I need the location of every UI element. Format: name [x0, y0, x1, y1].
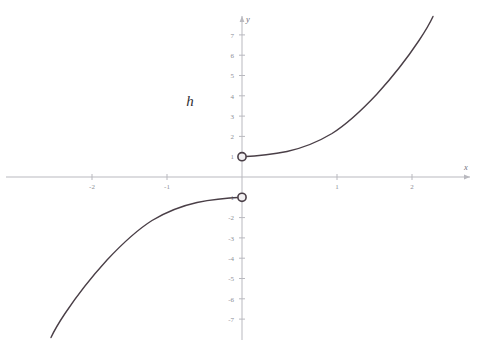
x-axis-arrow	[464, 175, 470, 180]
y-tick-label--6: -6	[228, 296, 234, 304]
curve-right-branch	[242, 17, 433, 157]
y-tick-label--7: -7	[228, 316, 234, 324]
axes-group	[6, 16, 470, 340]
y-tick-label-3: 3	[231, 113, 235, 121]
x-axis-label: x	[463, 162, 468, 172]
curve-left-branch	[51, 197, 242, 337]
y-axis-label: y	[245, 14, 250, 24]
y-tick-label-6: 6	[231, 52, 235, 60]
coordinate-plane: -2 -1 1 2 1 2 3 4 5 6 7	[0, 0, 488, 352]
x-tick-label-1: 1	[335, 183, 339, 191]
open-point-upper	[238, 153, 246, 161]
function-label: h	[186, 93, 194, 109]
y-axis-arrow	[240, 16, 245, 22]
y-tick-label-7: 7	[231, 32, 235, 40]
y-tick-label-1: 1	[231, 153, 235, 161]
y-tick-label-5: 5	[231, 72, 235, 80]
x-tick-label-2: 2	[410, 183, 414, 191]
y-tick-label--3: -3	[228, 235, 234, 243]
open-point-lower	[238, 193, 246, 201]
y-tick-label-2: 2	[231, 133, 235, 141]
x-tick-label--2: -2	[89, 183, 95, 191]
faint-caption	[6, 338, 206, 350]
y-tick-label--5: -5	[228, 275, 234, 283]
x-tick-label--1: -1	[164, 183, 170, 191]
y-tick-label--2: -2	[228, 214, 234, 222]
y-tick-label--4: -4	[228, 255, 234, 263]
y-tick-label-4: 4	[231, 93, 235, 101]
y-tick-group-positive: 1 2 3 4 5 6 7	[231, 32, 246, 162]
